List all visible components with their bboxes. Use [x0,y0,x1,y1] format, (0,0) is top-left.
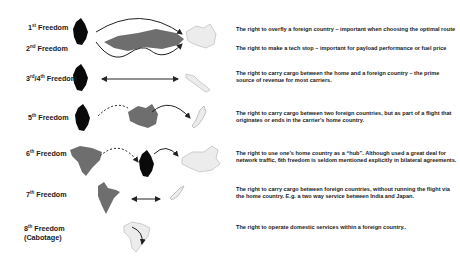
freedom-description-5: The right to carry cargo between two for… [236,110,458,125]
row-1-2-graphic [73,18,216,57]
solid-arrow [152,105,190,118]
foreign-country-brazil-icon [70,146,102,176]
destination-australia-icon [186,24,216,48]
freedom-description-8: The right to operate domestic services w… [236,224,458,231]
home-country-luxembourg-icon [73,18,88,45]
solid-arrow [154,148,178,156]
cabotage-label: (Cabotage) [24,233,62,242]
freedom-label-8: 8th Freedom (Cabotage) [24,224,65,242]
destination-mexico-icon [186,74,210,92]
row-8-graphic [124,222,150,252]
home-country-luxembourg-icon [139,150,154,177]
freedom-description-3-4: The right to carry cargo between the hom… [236,70,458,85]
row-3-4-graphic [73,64,210,92]
foreign-country-india-icon [98,182,120,214]
row-7-graphic [98,182,184,214]
foreign-country-australia-icon [128,104,158,128]
freedom-label-5: 5th Freedom [28,113,69,122]
dotted-arrow [100,148,138,162]
dotted-arrow [98,105,128,116]
freedom-label-6: 6th Freedom [26,149,67,158]
freedom-label-1: 1st Freedom [28,23,68,32]
freedom-label-7: 7th Freedom [26,190,67,199]
row-6-graphic [70,146,220,177]
freedom-description-6: The right to use one's home country as a… [236,150,458,165]
cabotage-brazil-icon [124,222,150,252]
destination-japan-icon [170,186,184,200]
freedom-description-2: The right to make a tech stop – importan… [236,45,458,52]
freedom-description-1: The right to overfly a foreign country –… [236,26,458,33]
destination-china-icon [182,146,220,172]
freedom-label-2: 2nd Freedom [26,44,68,53]
freedom-label-3-4: 3rd/4th Freedom [26,74,77,83]
row-5-graphic [75,104,206,131]
freedom-description-7: The right to carry cargo between foreign… [236,186,458,201]
home-country-luxembourg-icon [75,104,90,131]
destination-new-zealand-icon [192,106,206,128]
